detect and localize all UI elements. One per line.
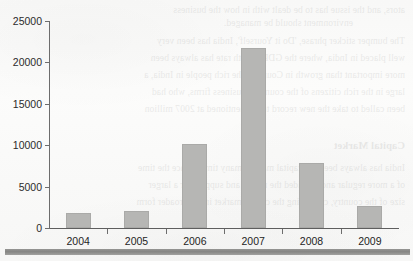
y-axis-tick-mark <box>45 145 50 146</box>
bar-2008 <box>299 163 324 228</box>
y-axis-tick-label: 0 <box>0 222 42 234</box>
y-axis-tick-label: 5000 <box>0 181 42 193</box>
x-axis-tick-label: 2005 <box>107 235 165 247</box>
y-axis-tick-label: 10000 <box>0 139 42 151</box>
bar-2005 <box>124 211 149 228</box>
x-axis-tick-label: 2009 <box>341 235 399 247</box>
y-axis-tick-label: 20000 <box>0 56 42 68</box>
x-axis-tick-label: 2008 <box>282 235 340 247</box>
y-axis-tick-mark <box>45 228 50 229</box>
bar-2007 <box>241 48 266 228</box>
scanned-page: ators, and the issue has to be dealt wit… <box>0 0 413 261</box>
x-axis-tick-mark <box>107 229 108 234</box>
y-axis-tick-label: 25000 <box>0 15 42 27</box>
bar-2009 <box>357 206 382 228</box>
bar-2004 <box>66 213 91 228</box>
y-axis-tick-mark <box>45 62 50 63</box>
x-axis-tick-mark <box>341 229 342 234</box>
page-edge-scan-band <box>5 249 410 255</box>
x-axis-tick-mark <box>282 229 283 234</box>
y-axis-line <box>49 21 50 228</box>
x-axis-tick-label: 2006 <box>166 235 224 247</box>
y-axis-tick-mark <box>45 104 50 105</box>
y-axis-tick-mark <box>45 187 50 188</box>
bar-2006 <box>182 144 207 228</box>
x-axis-tick-mark <box>224 229 225 234</box>
bar-chart: 0500010000150002000025000200420052006200… <box>0 0 413 261</box>
y-axis-tick-mark <box>45 21 50 22</box>
x-axis-tick-mark <box>166 229 167 234</box>
x-axis-tick-label: 2007 <box>224 235 282 247</box>
x-axis-tick-label: 2004 <box>49 235 107 247</box>
y-axis-tick-label: 15000 <box>0 98 42 110</box>
